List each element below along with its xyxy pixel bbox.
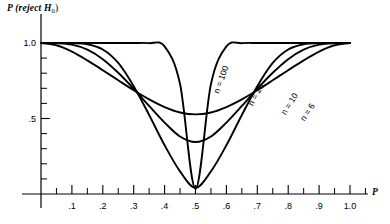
- tick-marks-group: [41, 43, 365, 194]
- x-tick-label: 1.0: [344, 201, 357, 211]
- x-tick-label: .5: [192, 201, 200, 211]
- y-tick-label: 1.0: [4, 38, 36, 48]
- power-curve-figure: P (reject H0) P .1.2.3.4.5.6.7.8.91.0 .5…: [0, 0, 390, 224]
- power-curve: [41, 43, 350, 142]
- x-axis-name: P: [372, 187, 378, 197]
- plot-canvas: [0, 0, 390, 224]
- x-tick-label: .1: [68, 201, 76, 211]
- x-tick-label: .6: [223, 201, 231, 211]
- x-tick-label: .7: [254, 201, 262, 211]
- x-tick-label: .2: [99, 201, 107, 211]
- y-tick-label: .5: [4, 114, 36, 124]
- x-tick-label: .3: [130, 201, 138, 211]
- x-tick-label: .8: [284, 201, 292, 211]
- power-curve: [41, 43, 350, 114]
- x-tick-label: .9: [315, 201, 323, 211]
- x-tick-label: .4: [161, 201, 169, 211]
